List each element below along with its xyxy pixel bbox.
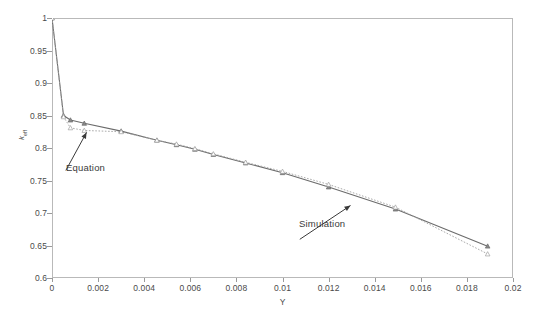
x-axis-tick-mark	[421, 278, 422, 282]
x-axis-tick-mark	[329, 278, 330, 282]
x-axis-tick-mark	[375, 278, 376, 282]
chart-figure: 0.60.650.70.750.80.850.90.951 00.0020.00…	[0, 0, 547, 314]
y-axis-tick-label: 0.95	[30, 46, 47, 56]
x-axis-tick-label: 0	[50, 283, 55, 293]
y-axis-tick-mark	[47, 246, 52, 247]
y-axis-tick-label: 0.7	[35, 208, 47, 218]
data-point-marker	[52, 18, 54, 20]
data-point-marker	[68, 126, 73, 130]
x-axis-tick-label: 0.004	[133, 283, 155, 293]
x-axis-tick-labels: 00.0020.0040.0060.0080.010.0120.0140.016…	[52, 283, 513, 297]
x-axis-tick-label: 0.018	[456, 283, 478, 293]
series-simulation	[52, 18, 490, 248]
y-axis-tick-label: 0.9	[35, 78, 47, 88]
y-axis-tick-label: 0.6	[35, 273, 47, 283]
y-axis-tick-label: 0.75	[30, 176, 47, 186]
annotation-label-equation: Equation	[66, 162, 105, 173]
series-line	[52, 18, 488, 246]
x-axis-tick-mark	[467, 278, 468, 282]
x-axis-tick-label: 0.008	[226, 283, 248, 293]
series-layer	[52, 18, 490, 256]
x-axis-tick-label: 0.012	[318, 283, 340, 293]
y-axis-tick-mark	[47, 213, 52, 214]
plot-canvas	[52, 18, 513, 278]
y-axis-tick-mark	[47, 51, 52, 52]
y-axis-tick-label: 0.8	[35, 143, 47, 153]
x-axis-tick-mark	[513, 278, 514, 282]
y-axis-title: keff	[17, 130, 28, 140]
y-axis-tick-mark	[47, 148, 52, 149]
x-axis-tick-label: 0.006	[179, 283, 201, 293]
y-axis-title-subscript: eff	[22, 130, 28, 136]
x-axis-tick-mark	[98, 278, 99, 282]
x-axis-title: Y	[52, 297, 513, 307]
y-axis-tick-label: 0.85	[30, 111, 47, 121]
annotation-label-simulation: Simulation	[299, 218, 345, 229]
x-axis-tick-mark	[236, 278, 237, 282]
x-axis-tick-label: 0.01	[274, 283, 291, 293]
y-axis-title-symbol: k	[17, 136, 26, 140]
x-axis-tick-label: 0.02	[505, 283, 522, 293]
x-axis-tick-label: 0.002	[87, 283, 109, 293]
y-axis-tick-mark	[47, 116, 52, 117]
data-point-marker	[485, 252, 490, 256]
y-axis-tick-mark	[47, 181, 52, 182]
x-axis-tick-mark	[190, 278, 191, 282]
x-axis-tick-mark	[283, 278, 284, 282]
x-axis-tick-mark	[144, 278, 145, 282]
data-point-marker	[393, 205, 398, 209]
y-axis-tick-label: 0.65	[30, 241, 47, 251]
x-axis-tick-label: 0.016	[410, 283, 432, 293]
data-point-marker	[280, 169, 285, 173]
y-axis-tick-labels: 0.60.650.70.750.80.850.90.951	[6, 18, 47, 278]
x-axis-tick-mark	[52, 278, 53, 282]
y-axis-tick-mark	[47, 83, 52, 84]
series-line	[52, 18, 488, 254]
y-axis-tick-mark	[47, 18, 52, 19]
x-axis-tick-label: 0.014	[364, 283, 386, 293]
